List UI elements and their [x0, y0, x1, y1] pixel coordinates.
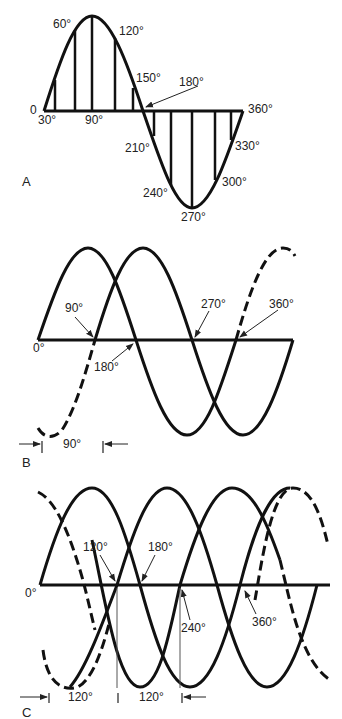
panel-b-label-0: 0° — [33, 342, 44, 354]
panel-a-label-90: 90° — [85, 114, 103, 126]
sine-wave-diagrams — [0, 0, 342, 719]
panel-c-phase-shift-label-1: 120° — [68, 691, 93, 703]
panel-b-curve-1-tail — [236, 322, 293, 340]
panel-a-label-120: 120° — [119, 25, 144, 37]
panel-a-caption: A — [22, 175, 31, 188]
panel-b-label-90: 90° — [65, 302, 83, 314]
panel-a-180-arrow — [146, 86, 198, 107]
panel-a-label-210: 210° — [125, 142, 150, 154]
panel-b-180-arrow — [112, 344, 133, 361]
panel-b-two-phase — [38, 248, 295, 437]
panel-b-label-180: 180° — [94, 361, 119, 373]
panel-c-phase-3 — [180, 488, 280, 585]
panel-a-label-270: 270° — [181, 211, 206, 223]
panel-b-label-270: 270° — [201, 298, 226, 310]
panel-a-label-180: 180° — [179, 76, 204, 88]
panel-c-180-arrow — [142, 555, 155, 581]
panel-c-three-phase — [38, 488, 330, 688]
panel-a-label-0: 0 — [30, 104, 37, 116]
panel-b-270-arrow — [195, 311, 209, 337]
panel-c-caption: C — [22, 706, 31, 719]
panel-c-label-360: 360° — [252, 616, 277, 628]
panel-a-label-150: 150° — [136, 72, 161, 84]
panel-a-label-360: 360° — [248, 103, 273, 115]
panel-a-label-300: 300° — [222, 176, 247, 188]
panel-c-label-180: 180° — [148, 541, 173, 553]
panel-a-label-30: 30° — [38, 114, 56, 126]
panel-c-360-arrow — [245, 591, 256, 614]
panel-b-phase-shift-label: 90° — [63, 438, 81, 450]
panel-c-label-240: 240° — [181, 622, 206, 634]
panel-c-240-arrow — [182, 590, 190, 620]
panel-a-label-60: 60° — [53, 18, 71, 30]
panel-a-label-330: 330° — [235, 140, 260, 152]
panel-b-curve-1-dashed — [236, 248, 295, 340]
panel-b-caption: B — [22, 456, 31, 469]
panel-c-120-arrow — [100, 555, 115, 581]
panel-c-phase-2 — [70, 488, 317, 687]
panel-b-curve-2-dashed — [38, 340, 95, 437]
panel-c-label-120: 120° — [83, 541, 108, 553]
panel-c-phase-shift-label-2: 120° — [139, 691, 164, 703]
panel-c-phase-1 — [40, 488, 290, 687]
panel-b-90-arrow — [75, 317, 93, 337]
panel-c-label-0: 0° — [25, 587, 36, 599]
panel-b-label-360: 360° — [269, 298, 294, 310]
panel-b-360-arrow — [240, 310, 278, 337]
panel-a-label-240: 240° — [143, 187, 168, 199]
